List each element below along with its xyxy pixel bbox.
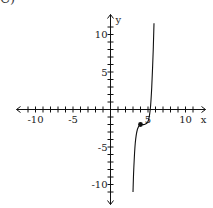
- y-tick-label: -10: [91, 179, 107, 190]
- x-tick-label: -10: [27, 114, 43, 125]
- marked-point: [138, 122, 143, 127]
- y-tick-label: 5: [101, 67, 107, 78]
- cubic-function-graph: -10-5510-10-5510 x y: [0, 0, 213, 208]
- function-curve: [133, 23, 154, 192]
- axes: [17, 15, 206, 205]
- y-axis-label: y: [115, 14, 122, 25]
- x-axis-label: x: [201, 114, 207, 125]
- x-tick-label: 10: [179, 114, 192, 125]
- x-tick-label: 5: [145, 114, 151, 125]
- y-tick-label: -5: [98, 142, 108, 153]
- x-tick-label: -5: [68, 114, 78, 125]
- y-tick-label: 10: [95, 29, 108, 40]
